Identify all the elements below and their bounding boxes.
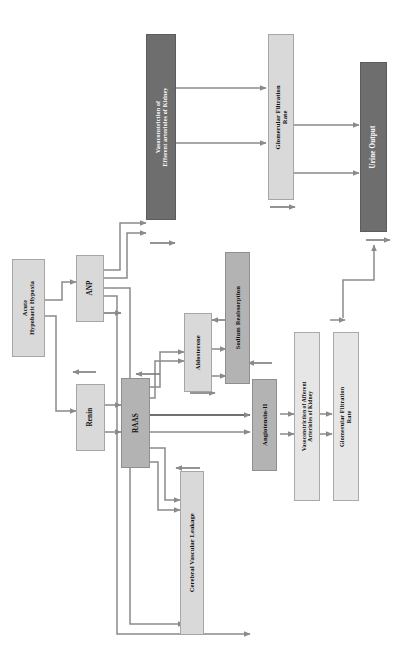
node-cerebral-vascular-leakage[interactable]: Cerebral Vascular Leakage — [180, 471, 204, 635]
node-raas[interactable]: RAAS — [121, 378, 150, 468]
node-label: Urine Output — [369, 126, 377, 169]
node-sodium-reabsorption[interactable]: Sodium Reabsorption — [225, 252, 250, 384]
edge-hypoxia-anp — [45, 282, 76, 300]
node-label: Glomerular Filtration Rate — [339, 386, 353, 446]
node-glomerular-filtration-rate-bottom[interactable]: Glomerular Filtration Rate — [333, 332, 359, 501]
node-aldosterone[interactable]: Aldosterone — [184, 313, 212, 392]
edge-raas-cerebral-1 — [150, 448, 180, 500]
node-urine-output[interactable]: Urine Output — [360, 62, 387, 232]
node-label: Vasoconstriction of Afferent Arterioles … — [301, 382, 314, 452]
edge-anp-efferent-1 — [104, 223, 146, 270]
node-renin[interactable]: Renin — [76, 384, 105, 451]
node-vasoconstriction-efferent-arterioles[interactable]: Vasoconstriction of Efferent arterioles … — [146, 34, 176, 220]
node-glomerular-filtration-rate-top[interactable]: Glomerular Filtration Rate — [268, 34, 294, 200]
node-label: Cerebral Vascular Leakage — [188, 513, 195, 592]
edge-hypoxia-renin — [45, 316, 76, 411]
edge-raas-aldosterone-2 — [150, 361, 184, 398]
node-label: Aldosterone — [194, 335, 201, 370]
edge-gfrbottom-urine — [343, 245, 374, 318]
node-angiotensin-ii[interactable]: Angiotensin-II — [252, 379, 277, 471]
node-vasoconstriction-afferent-arterioles[interactable]: Vasoconstriction of Afferent Arterioles … — [294, 332, 320, 501]
node-label: Vasoconstriction of Efferent arterioles … — [154, 88, 168, 167]
flowchart-canvas: Acute Hypobaric Hypoxia ANP Renin RAAS A… — [0, 0, 403, 655]
node-anp[interactable]: ANP — [76, 255, 104, 322]
node-label: Angiotensin-II — [261, 404, 268, 446]
node-label: Acute Hypobaric Hypoxia — [22, 281, 36, 335]
node-acute-hypobaric-hypoxia[interactable]: Acute Hypobaric Hypoxia — [12, 259, 45, 357]
node-label: ANP — [86, 281, 94, 296]
edge-anp-efferent-2 — [104, 233, 146, 278]
node-label: Renin — [86, 408, 94, 427]
node-label: RAAS — [131, 413, 139, 433]
node-label: Sodium Reabsorption — [234, 286, 241, 349]
node-label: Glomerular Filtration Rate — [274, 85, 289, 149]
